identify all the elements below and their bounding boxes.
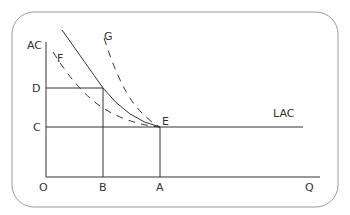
f-dashed-curve [53, 52, 160, 127]
g-curve-label: G [104, 30, 113, 43]
x-axis-label: Q [305, 181, 314, 194]
e-point-label: E [162, 115, 169, 128]
y-axis-label: AC [27, 39, 42, 52]
cost-curve-diagram: AC F G D C E LAC O B A Q [0, 0, 350, 215]
lac-curve-label: LAC [273, 107, 295, 120]
origin-label: O [39, 181, 48, 194]
b-tick-label: B [99, 181, 107, 194]
f-curve-label: F [57, 52, 63, 65]
g-dashed-curve [104, 38, 160, 127]
a-tick-label: A [156, 181, 164, 194]
c-tick-label: C [33, 121, 41, 134]
d-tick-label: D [32, 82, 40, 95]
